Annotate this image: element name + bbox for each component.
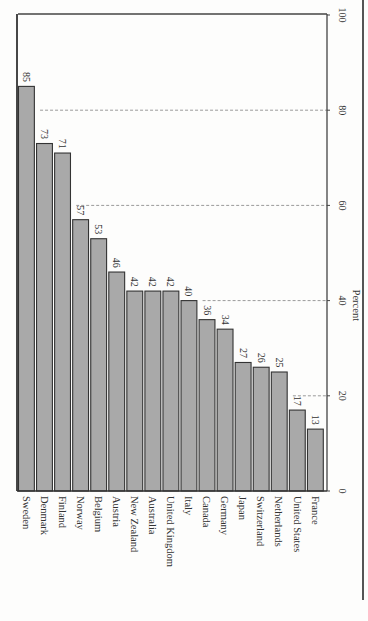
- value-label: 46: [111, 258, 122, 268]
- category-label: United Kingdom: [165, 496, 176, 567]
- value-label: 57: [75, 205, 86, 215]
- bar-canada: [199, 320, 215, 491]
- category-label: Belgium: [93, 496, 104, 532]
- bar-belgium: [91, 239, 107, 491]
- bar-united-states: [289, 410, 305, 491]
- value-label: 53: [93, 224, 104, 234]
- bar-japan: [235, 362, 251, 491]
- bar-germany: [217, 329, 233, 491]
- category-label: United States: [292, 496, 303, 552]
- value-label: 34: [220, 315, 231, 325]
- category-label: Norway: [75, 496, 86, 531]
- value-label: 42: [165, 277, 176, 287]
- bar-finland: [55, 153, 71, 491]
- value-label: 73: [39, 129, 50, 139]
- bar-sweden: [19, 86, 35, 491]
- category-label: Denmark: [39, 496, 50, 536]
- value-label: 42: [147, 277, 158, 287]
- tick-label: 80: [337, 105, 348, 115]
- bar-denmark: [37, 144, 53, 491]
- category-label: Austria: [111, 496, 122, 527]
- category-label: New Zealand: [129, 496, 140, 553]
- category-label: Japan: [237, 496, 248, 521]
- value-label: 27: [238, 348, 249, 358]
- category-label: Germany: [219, 496, 230, 536]
- bar-norway: [73, 220, 89, 491]
- value-label: 25: [274, 358, 285, 368]
- category-label: France: [310, 496, 321, 525]
- category-label: Italy: [183, 496, 194, 516]
- bar-chart: 85Sweden73Denmark71Finland57Norway53Belg…: [0, 0, 368, 621]
- bar-italy: [181, 301, 197, 491]
- category-label: Finland: [57, 496, 68, 529]
- category-label: Sweden: [21, 496, 32, 530]
- category-label: Netherlands: [273, 496, 284, 547]
- tick-label: 20: [337, 391, 348, 401]
- value-label: 17: [292, 396, 303, 406]
- value-label: 40: [183, 286, 194, 296]
- value-label: 42: [129, 277, 140, 287]
- value-label: 85: [21, 72, 32, 82]
- bar-united-kingdom: [163, 291, 179, 491]
- category-label: Canada: [201, 496, 212, 528]
- category-label: Switzerland: [255, 496, 266, 547]
- bar-new-zealand: [127, 291, 143, 491]
- value-label: 71: [57, 139, 68, 149]
- axis-label-percent: Percent: [351, 290, 362, 322]
- category-label: Australia: [147, 496, 158, 535]
- bar-australia: [145, 291, 161, 491]
- tick-label: 40: [337, 296, 348, 306]
- tick-label: 100: [337, 8, 348, 23]
- bar-switzerland: [253, 367, 269, 491]
- value-label: 13: [310, 415, 321, 425]
- bar-netherlands: [271, 372, 287, 491]
- tick-label: 60: [337, 200, 348, 210]
- value-label: 26: [256, 353, 267, 363]
- bar-austria: [109, 272, 125, 491]
- value-label: 36: [202, 305, 213, 315]
- tick-label: 0: [337, 489, 348, 494]
- bar-france: [307, 429, 323, 491]
